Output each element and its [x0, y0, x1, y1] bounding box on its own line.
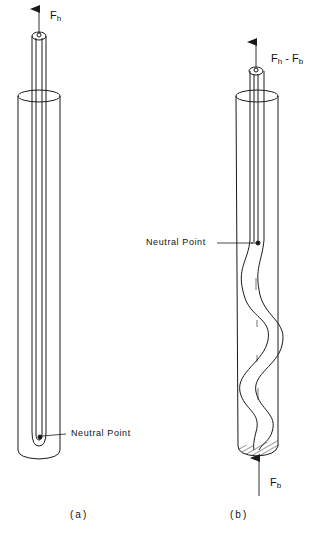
neutral-point-dot-b — [256, 241, 260, 245]
force-minus-subscript: b — [299, 57, 303, 66]
force-symbol: F — [271, 52, 278, 64]
casing-b — [236, 90, 278, 456]
neutral-point-label-a: Neutral Point — [71, 428, 131, 438]
diagram-canvas — [0, 0, 320, 536]
tubing-b — [240, 67, 283, 450]
casing-a — [18, 90, 60, 459]
force-label-a-top: Fh — [50, 9, 61, 23]
tubing-a — [32, 32, 46, 446]
force-label-b-bottom: Fb — [270, 476, 281, 490]
neutral-point-label-b: Neutral Point — [146, 237, 206, 247]
neutral-point-dot-a — [38, 435, 42, 439]
caption-b: (b) — [230, 509, 248, 520]
force-subscript: b — [277, 481, 281, 490]
caption-a: (a) — [70, 509, 88, 520]
force-label-b-top: Fh - Fb — [271, 52, 303, 66]
force-symbol: F — [270, 476, 277, 488]
force-symbol: F — [50, 9, 57, 21]
panel-a — [18, 9, 66, 459]
force-minus: - F — [282, 52, 299, 64]
panel-b — [217, 42, 283, 496]
force-subscript: h — [57, 14, 61, 23]
